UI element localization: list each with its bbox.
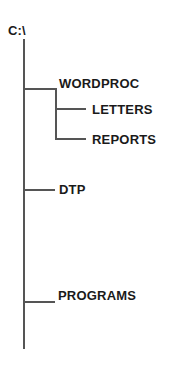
directory-tree: C:\ WORDPROC LETTERS REPORTS DTP PROGRAM… bbox=[0, 0, 179, 366]
node-wordproc: WORDPROC bbox=[59, 77, 139, 90]
node-dtp: DTP bbox=[59, 183, 86, 196]
branch-line-letters bbox=[55, 108, 86, 110]
node-letters: LETTERS bbox=[92, 103, 153, 116]
branch-line-wordproc bbox=[23, 88, 57, 90]
branch-line-programs bbox=[23, 301, 55, 303]
branch-line-dtp bbox=[23, 189, 55, 191]
branch-line-reports bbox=[55, 138, 86, 140]
node-reports: REPORTS bbox=[92, 133, 156, 146]
subtrunk-line-wordproc bbox=[55, 88, 57, 140]
node-root: C:\ bbox=[8, 24, 26, 37]
node-programs: PROGRAMS bbox=[58, 289, 136, 302]
